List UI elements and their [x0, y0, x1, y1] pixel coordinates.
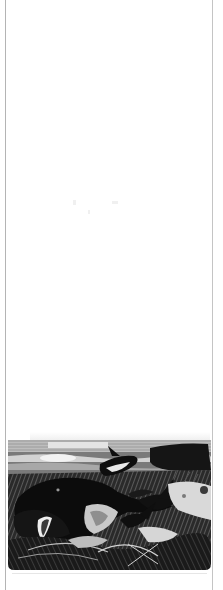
page-left-edge	[5, 0, 6, 590]
book-page	[0, 0, 223, 590]
whale-engraving-illustration	[8, 440, 211, 570]
bleed-through-mark	[112, 201, 118, 204]
bleed-through-mark	[88, 210, 90, 214]
plate-bottom-edge	[12, 573, 207, 574]
page-right-edge	[212, 0, 213, 590]
bleed-through-mark	[73, 200, 76, 205]
